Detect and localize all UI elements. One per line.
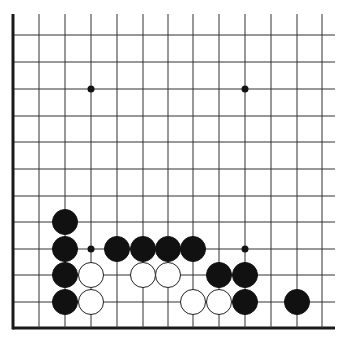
white-stone[interactable] [79,263,104,288]
black-stone[interactable] [233,263,258,288]
black-stone[interactable] [181,237,206,262]
star-point [242,246,249,253]
black-stone[interactable] [233,290,258,315]
white-stone[interactable] [207,290,232,315]
black-stone[interactable] [53,237,78,262]
black-stone[interactable] [53,210,78,235]
go-board[interactable] [0,0,348,342]
white-stone[interactable] [156,263,181,288]
star-point [242,86,249,93]
black-stone[interactable] [156,237,181,262]
white-stone[interactable] [131,263,156,288]
black-stone[interactable] [105,237,130,262]
star-point [88,246,95,253]
black-stone[interactable] [53,290,78,315]
white-stone[interactable] [79,290,104,315]
black-stone[interactable] [131,237,156,262]
black-stone[interactable] [53,263,78,288]
star-point [88,86,95,93]
black-stone[interactable] [207,263,232,288]
black-stone[interactable] [285,290,310,315]
white-stone[interactable] [181,290,206,315]
